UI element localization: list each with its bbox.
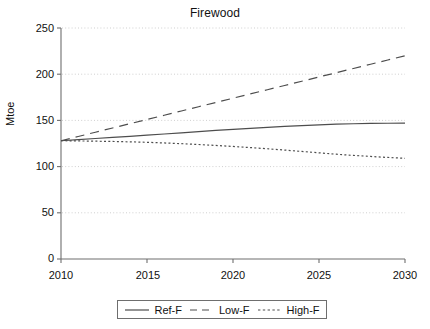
axis-lines — [61, 28, 405, 259]
legend-item-ref-f: Ref-F — [124, 304, 182, 316]
plot-area — [0, 0, 430, 329]
data-series — [61, 56, 405, 159]
legend-swatch-dotted-icon — [257, 306, 283, 314]
legend-item-high-f: High-F — [257, 304, 320, 316]
legend-label-ref-f: Ref-F — [154, 304, 182, 316]
legend-swatch-solid-icon — [124, 306, 150, 314]
grid-lines — [62, 28, 405, 213]
chart-figure: Firewood Mtoe 250 200 150 100 50 0 2010 … — [0, 0, 430, 329]
chart-legend: Ref-F Low-F High-F — [117, 300, 327, 319]
legend-item-low-f: Low-F — [189, 304, 250, 316]
series-line-high-f — [61, 141, 405, 159]
series-line-low-f — [61, 56, 405, 141]
legend-label-low-f: Low-F — [219, 304, 250, 316]
series-line-ref-f — [61, 123, 405, 141]
legend-swatch-dashed-icon — [189, 306, 215, 314]
tick-marks — [57, 28, 405, 263]
legend-label-high-f: High-F — [287, 304, 320, 316]
